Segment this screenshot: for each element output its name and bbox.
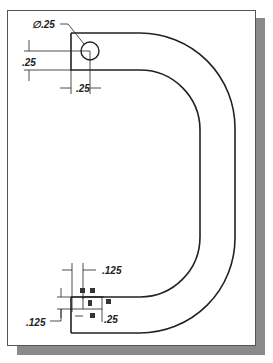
- part-outline: [71, 33, 235, 333]
- technical-drawing: ∅.25 .25 .25 .125 .125 .25: [0, 0, 273, 363]
- end-width-label: .25: [104, 314, 118, 325]
- hole-diameter-label: ∅.25: [32, 19, 55, 30]
- end-notch-horizontal-label: .125: [102, 265, 122, 276]
- hole-horizontal-offset-label: .25: [76, 83, 90, 94]
- hole-vertical-offset-label: .25: [22, 57, 36, 68]
- bottom-dimensions: [50, 263, 104, 322]
- end-notch-vertical-label: .125: [26, 317, 46, 328]
